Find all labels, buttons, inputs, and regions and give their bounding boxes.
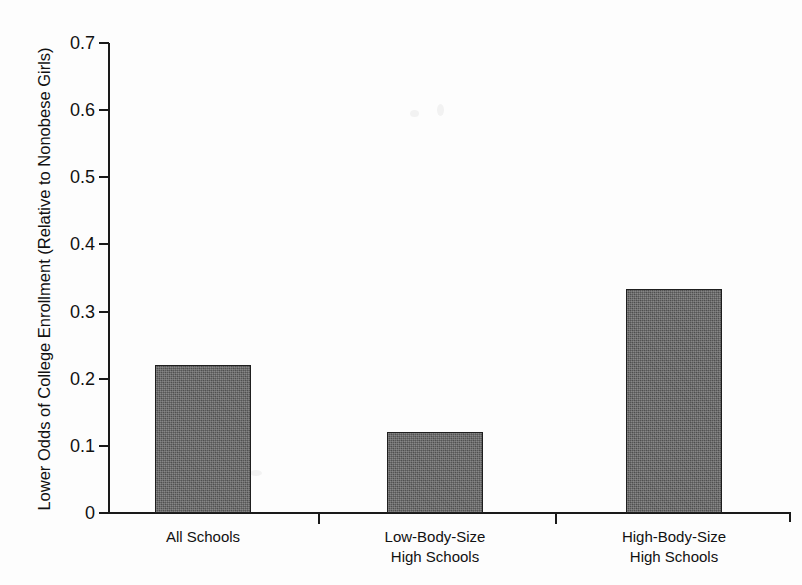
y-axis-tick-label: 0.6 xyxy=(49,101,95,119)
y-axis-title: Lower Odds of College Enrollment (Relati… xyxy=(35,19,53,539)
x-axis-label: High-Body-Size High Schools xyxy=(564,527,784,567)
y-axis-tick-label: 0.4 xyxy=(49,235,95,253)
y-axis-tick xyxy=(99,42,109,44)
scan-speck xyxy=(437,104,444,116)
scan-speck xyxy=(410,110,419,117)
y-axis-tick-label: 0.1 xyxy=(49,437,95,455)
y-axis-tick xyxy=(99,512,109,514)
x-axis-label: Low-Body-Size High Schools xyxy=(325,527,545,567)
bar xyxy=(387,432,483,513)
scan-speck xyxy=(250,470,262,476)
y-axis-tick xyxy=(99,243,109,245)
x-axis-label: All Schools xyxy=(93,527,313,547)
x-axis-tick xyxy=(555,513,557,524)
bar xyxy=(626,289,722,513)
y-axis-tick xyxy=(99,445,109,447)
y-axis-tick xyxy=(99,109,109,111)
y-axis-tick-label: 0.2 xyxy=(49,370,95,388)
y-axis-tick-label: 0.5 xyxy=(49,168,95,186)
y-axis-tick xyxy=(99,176,109,178)
y-axis-tick-label: 0 xyxy=(49,504,95,522)
y-axis-line xyxy=(108,43,110,514)
y-axis-tick xyxy=(99,311,109,313)
y-axis-tick xyxy=(99,378,109,380)
y-axis-tick-label: 0.3 xyxy=(49,303,95,321)
y-axis-tick-label: 0.7 xyxy=(49,34,95,52)
x-axis-tick xyxy=(318,513,320,524)
bar xyxy=(155,365,251,513)
chart-page: Lower Odds of College Enrollment (Relati… xyxy=(0,0,802,585)
x-axis-end-tick xyxy=(789,512,791,522)
bar-chart: Lower Odds of College Enrollment (Relati… xyxy=(0,0,802,585)
